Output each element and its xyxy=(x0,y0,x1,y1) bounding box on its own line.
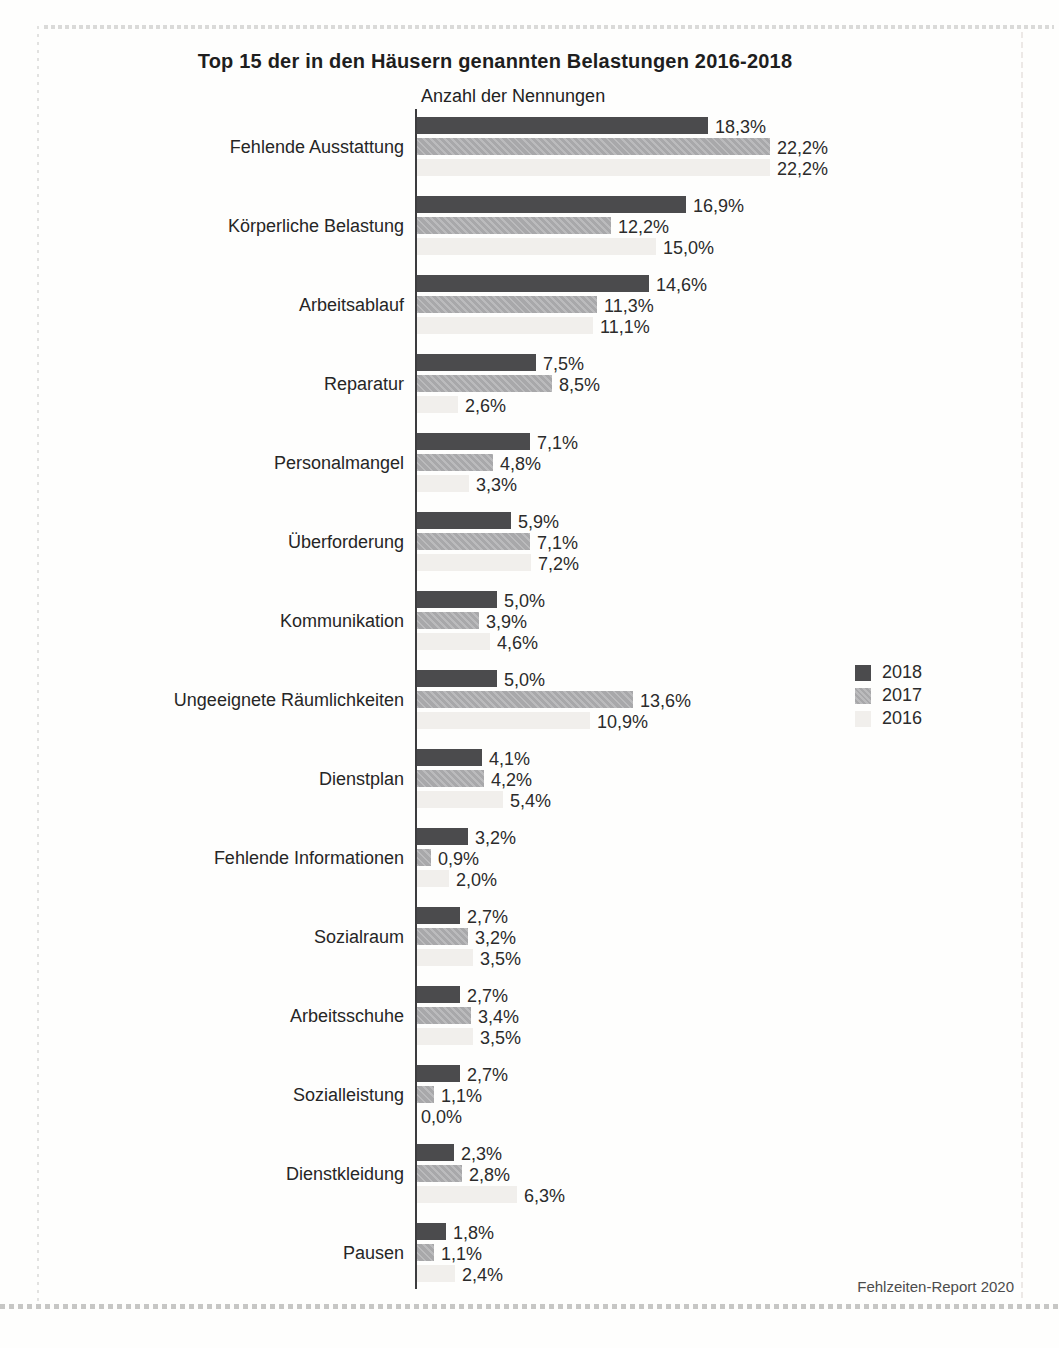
category-label: Ungeeignete Räumlichkeiten xyxy=(0,691,404,710)
value-label: 4,6% xyxy=(497,634,538,652)
bar-2018 xyxy=(417,907,460,924)
value-label: 11,3% xyxy=(604,297,654,315)
value-label: 1,1% xyxy=(441,1087,482,1105)
value-label: 7,1% xyxy=(537,434,578,452)
legend: 201820172016 xyxy=(855,661,922,730)
value-label: 2,7% xyxy=(467,1066,508,1084)
value-label: 0,0% xyxy=(421,1108,462,1126)
value-label: 16,9% xyxy=(693,197,744,215)
bar-2016 xyxy=(417,1186,517,1203)
category-label: Sozialraum xyxy=(0,928,404,947)
category-label: Überforderung xyxy=(0,533,404,552)
category-label: Personalmangel xyxy=(0,454,404,473)
category-label: Dienstplan xyxy=(0,770,404,789)
bar-2017 xyxy=(417,612,479,629)
category-label: Fehlende Ausstattung xyxy=(0,138,404,157)
value-label: 4,2% xyxy=(491,771,532,789)
bar-2017 xyxy=(417,375,552,392)
bar-2017 xyxy=(417,770,484,787)
bar-2018 xyxy=(417,986,460,1003)
value-label: 2,3% xyxy=(461,1145,502,1163)
value-label: 14,6% xyxy=(656,276,707,294)
bar-group: Arbeitsschuhe2,7%3,4%3,5% xyxy=(0,986,1059,1046)
bar-group: Sozialraum2,7%3,2%3,5% xyxy=(0,907,1059,967)
value-label: 3,3% xyxy=(476,476,517,494)
value-label: 3,5% xyxy=(480,1029,521,1047)
bar-group: Personalmangel7,1%4,8%3,3% xyxy=(0,433,1059,493)
bar-2016 xyxy=(417,475,469,492)
value-label: 4,1% xyxy=(489,750,530,768)
value-label: 3,4% xyxy=(478,1008,519,1026)
category-label: Reparatur xyxy=(0,375,404,394)
value-label: 13,6% xyxy=(640,692,691,710)
bar-2018 xyxy=(417,1065,460,1082)
bar-group: Dienstkleidung2,3%2,8%6,3% xyxy=(0,1144,1059,1204)
bar-2018 xyxy=(417,591,497,608)
bar-2017 xyxy=(417,691,633,708)
category-label: Pausen xyxy=(0,1244,404,1263)
value-label: 15,0% xyxy=(663,239,714,257)
bar-2017 xyxy=(417,454,493,471)
bar-2017 xyxy=(417,138,770,155)
category-label: Sozialleistung xyxy=(0,1086,404,1105)
legend-label: 2017 xyxy=(882,685,922,706)
value-label: 5,0% xyxy=(504,671,545,689)
legend-swatch-2018 xyxy=(855,665,871,681)
bar-2017 xyxy=(417,1165,462,1182)
category-label: Kommunikation xyxy=(0,612,404,631)
legend-label: 2016 xyxy=(882,708,922,729)
value-label: 7,2% xyxy=(538,555,579,573)
legend-label: 2018 xyxy=(882,662,922,683)
value-label: 7,5% xyxy=(543,355,584,373)
bar-2017 xyxy=(417,928,468,945)
value-label: 3,9% xyxy=(486,613,527,631)
value-label: 2,4% xyxy=(462,1266,503,1284)
bar-2017 xyxy=(417,296,597,313)
bar-2016 xyxy=(417,159,770,176)
value-label: 12,2% xyxy=(618,218,669,236)
bar-2016 xyxy=(417,949,473,966)
bar-group: Sozialleistung2,7%1,1%0,0% xyxy=(0,1065,1059,1125)
value-label: 2,8% xyxy=(469,1166,510,1184)
bar-group: Kommunikation5,0%3,9%4,6% xyxy=(0,591,1059,651)
value-label: 7,1% xyxy=(537,534,578,552)
bar-group: Dienstplan4,1%4,2%5,4% xyxy=(0,749,1059,809)
category-label: Dienstkleidung xyxy=(0,1165,404,1184)
legend-item-2017: 2017 xyxy=(855,684,922,707)
bar-2016 xyxy=(417,791,503,808)
category-label: Fehlende Informationen xyxy=(0,849,404,868)
value-label: 2,7% xyxy=(467,908,508,926)
bar-group: Arbeitsablauf14,6%11,3%11,1% xyxy=(0,275,1059,335)
bar-2016 xyxy=(417,1028,473,1045)
category-label: Körperliche Belastung xyxy=(0,217,404,236)
bar-2018 xyxy=(417,512,511,529)
value-label: 8,5% xyxy=(559,376,600,394)
value-label: 1,8% xyxy=(453,1224,494,1242)
value-label: 5,0% xyxy=(504,592,545,610)
bar-2018 xyxy=(417,670,497,687)
value-label: 18,3% xyxy=(715,118,766,136)
bar-group: Fehlende Informationen3,2%0,9%2,0% xyxy=(0,828,1059,888)
bar-2017 xyxy=(417,533,530,550)
bar-2016 xyxy=(417,396,458,413)
value-label: 2,7% xyxy=(467,987,508,1005)
bar-2016 xyxy=(417,238,656,255)
legend-swatch-2017 xyxy=(855,688,871,704)
legend-item-2018: 2018 xyxy=(855,661,922,684)
bar-2017 xyxy=(417,1086,434,1103)
bar-2018 xyxy=(417,196,686,213)
value-label: 10,9% xyxy=(597,713,648,731)
value-label: 5,4% xyxy=(510,792,551,810)
bar-2016 xyxy=(417,633,490,650)
bar-2017 xyxy=(417,1007,471,1024)
bar-group: Reparatur7,5%8,5%2,6% xyxy=(0,354,1059,414)
bar-2017 xyxy=(417,849,431,866)
category-label: Arbeitsschuhe xyxy=(0,1007,404,1026)
value-label: 0,9% xyxy=(438,850,479,868)
bar-2016 xyxy=(417,554,531,571)
bar-group: Überforderung5,9%7,1%7,2% xyxy=(0,512,1059,572)
bar-2018 xyxy=(417,749,482,766)
value-label: 22,2% xyxy=(777,139,828,157)
value-label: 1,1% xyxy=(441,1245,482,1263)
value-label: 22,2% xyxy=(777,160,828,178)
